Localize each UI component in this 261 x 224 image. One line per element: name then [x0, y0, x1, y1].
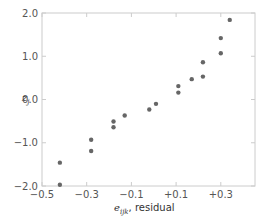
x-tick-label: +0.1 [164, 189, 188, 200]
x-tick-label: −0.1 [119, 189, 143, 200]
data-point [201, 74, 205, 78]
y-tick-label: 2.0 [22, 8, 38, 19]
data-point [228, 18, 232, 22]
plot-border [42, 13, 255, 186]
data-point [122, 113, 126, 117]
data-point [219, 51, 223, 55]
data-point [176, 90, 180, 94]
y-axis: 2.01.00.0−1.0−2.0 [14, 8, 255, 192]
normal-probability-plot: 2.01.00.0−1.0−2.0 −0.5−0.3−0.1+0.1+0.3 z… [0, 0, 261, 224]
data-point [154, 102, 158, 106]
x-axis-label: eijk, residual [114, 202, 175, 216]
data-point [176, 84, 180, 88]
data-point [190, 77, 194, 81]
data-point [147, 107, 151, 111]
data-points [58, 18, 232, 187]
x-tick-label: +0.3 [209, 189, 233, 200]
data-point [111, 125, 115, 129]
data-point [219, 36, 223, 40]
x-tick-label: −0.3 [75, 189, 99, 200]
data-point [58, 183, 62, 187]
data-point [89, 138, 93, 142]
data-point [89, 149, 93, 153]
data-point [111, 119, 115, 123]
data-point [201, 60, 205, 64]
plot-frame [42, 13, 255, 186]
y-tick-label: −1.0 [14, 137, 38, 148]
y-tick-label: 1.0 [22, 51, 38, 62]
x-tick-label: −0.5 [30, 189, 54, 200]
x-axis: −0.5−0.3−0.1+0.1+0.3 [30, 13, 233, 200]
data-point [58, 160, 62, 164]
